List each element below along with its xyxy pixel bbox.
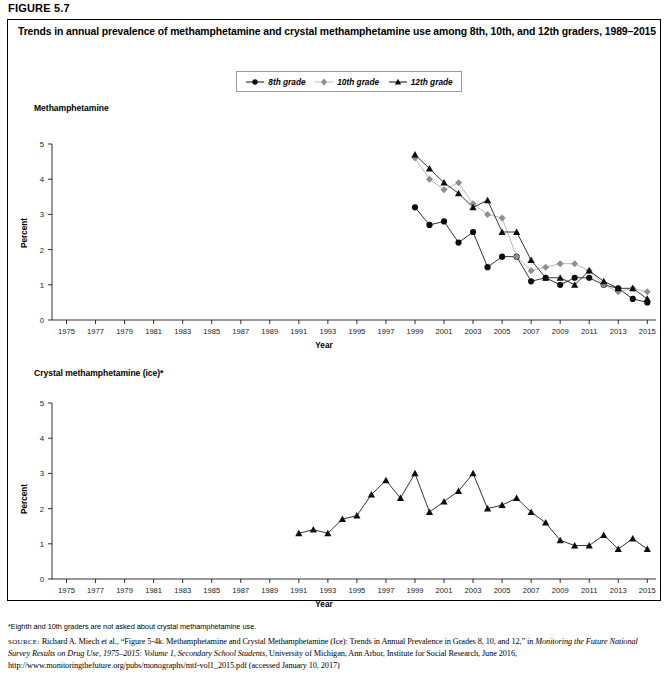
svg-text:5: 5 (40, 140, 45, 149)
svg-text:1981: 1981 (145, 327, 162, 336)
svg-text:2005: 2005 (494, 327, 511, 336)
chart2-plot-area: 0123451975197719791981198319851987198919… (0, 355, 668, 620)
svg-text:2009: 2009 (552, 327, 569, 336)
svg-text:3: 3 (40, 469, 44, 478)
svg-text:1983: 1983 (174, 327, 191, 336)
svg-text:2001: 2001 (436, 586, 453, 595)
svg-text:2007: 2007 (523, 586, 540, 595)
svg-text:1981: 1981 (145, 586, 162, 595)
svg-text:1997: 1997 (377, 327, 394, 336)
svg-text:1993: 1993 (319, 327, 336, 336)
svg-text:1987: 1987 (232, 586, 249, 595)
svg-text:2: 2 (40, 246, 44, 255)
svg-text:1991: 1991 (290, 586, 307, 595)
source-prefix: SOURCE: (8, 638, 40, 646)
svg-text:2011: 2011 (581, 327, 597, 336)
svg-text:2005: 2005 (494, 586, 511, 595)
svg-text:1999: 1999 (407, 586, 424, 595)
svg-text:1989: 1989 (261, 586, 278, 595)
svg-text:1989: 1989 (261, 327, 278, 336)
svg-text:2003: 2003 (465, 586, 482, 595)
svg-text:1985: 1985 (203, 586, 220, 595)
svg-text:1979: 1979 (116, 327, 133, 336)
svg-text:1: 1 (40, 540, 44, 549)
svg-text:1975: 1975 (58, 586, 75, 595)
figure-page: FIGURE 5.7 Trends in annual prevalence o… (0, 0, 668, 681)
svg-text:2007: 2007 (523, 327, 540, 336)
chart1-plot-area: 0123451975197719791981198319851987198919… (0, 0, 668, 360)
svg-text:2013: 2013 (610, 586, 627, 595)
svg-text:2013: 2013 (610, 327, 627, 336)
svg-text:1983: 1983 (174, 586, 191, 595)
source-citation: SOURCE: Richard A. Miech et al., “Figure… (8, 636, 660, 671)
chart-footnote: *Eighth and 10th graders are not asked a… (8, 622, 256, 631)
svg-text:1975: 1975 (58, 327, 75, 336)
svg-text:0: 0 (40, 316, 45, 325)
svg-text:1987: 1987 (232, 327, 249, 336)
chart-methamphetamine: Methamphetamine Percent Year 01234519751… (0, 0, 668, 360)
source-part1: Richard A. Miech et al., “Figure 5-4k. M… (40, 637, 536, 646)
svg-text:1999: 1999 (407, 327, 424, 336)
svg-text:2011: 2011 (581, 586, 597, 595)
svg-text:1993: 1993 (319, 586, 336, 595)
svg-text:2015: 2015 (639, 586, 656, 595)
svg-text:1977: 1977 (87, 586, 104, 595)
svg-text:3: 3 (40, 210, 44, 219)
svg-text:2003: 2003 (465, 327, 482, 336)
svg-text:5: 5 (40, 399, 45, 408)
svg-text:2001: 2001 (436, 327, 453, 336)
svg-text:1995: 1995 (348, 586, 365, 595)
chart-crystal-methamphetamine: Crystal methamphetamine (ice)* Percent Y… (0, 355, 668, 620)
svg-text:2: 2 (40, 505, 44, 514)
svg-text:1977: 1977 (87, 327, 104, 336)
svg-text:4: 4 (40, 434, 45, 443)
svg-text:1979: 1979 (116, 586, 133, 595)
svg-text:1: 1 (40, 281, 44, 290)
svg-text:1985: 1985 (203, 327, 220, 336)
svg-text:1991: 1991 (290, 327, 307, 336)
svg-text:0: 0 (40, 575, 45, 584)
svg-text:4: 4 (40, 175, 45, 184)
svg-text:2009: 2009 (552, 586, 569, 595)
svg-text:1997: 1997 (377, 586, 394, 595)
svg-text:1995: 1995 (348, 327, 365, 336)
svg-text:2015: 2015 (639, 327, 656, 336)
